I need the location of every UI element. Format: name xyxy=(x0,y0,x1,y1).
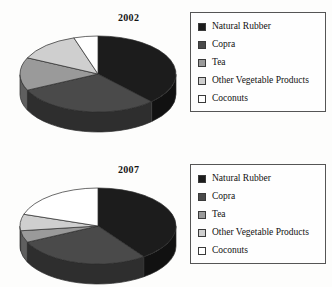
legend-swatch-tea xyxy=(198,59,206,67)
legend-item[interactable]: Copra xyxy=(198,188,318,206)
legend-label-copra: Copra xyxy=(212,40,235,50)
legend-swatch-tea xyxy=(198,211,206,219)
legend-item[interactable]: Coconuts xyxy=(198,242,318,260)
legend-item[interactable]: Other Vegetable Products xyxy=(198,224,318,242)
legend-swatch-copra xyxy=(198,41,206,49)
legend-swatch-natural-rubber xyxy=(198,175,206,183)
legend-item[interactable]: Tea xyxy=(198,206,318,224)
legend-swatch-copra xyxy=(198,193,206,201)
legend-item[interactable]: Tea xyxy=(198,54,318,72)
legend-swatch-natural-rubber xyxy=(198,23,206,31)
legend-2002: Natural Rubber Copra Tea Other Vegetable… xyxy=(190,12,326,112)
legend-label-copra: Copra xyxy=(212,192,235,202)
legend-item[interactable]: Copra xyxy=(198,36,318,54)
legend-swatch-coconuts xyxy=(198,247,206,255)
legend-item[interactable]: Natural Rubber xyxy=(198,170,318,188)
legend-swatch-other-vegetable-products xyxy=(198,229,206,237)
legend-swatch-other-vegetable-products xyxy=(198,77,206,85)
legend-label-natural-rubber: Natural Rubber xyxy=(212,22,271,32)
bottom-clipped-text xyxy=(0,276,332,287)
legend-label-tea: Tea xyxy=(212,58,226,68)
legend-item[interactable]: Coconuts xyxy=(198,90,318,108)
legend-label-coconuts: Coconuts xyxy=(212,94,248,104)
legend-2007: Natural Rubber Copra Tea Other Vegetable… xyxy=(190,164,326,264)
pie-chart-2007 xyxy=(10,174,186,278)
pie-svg-2002 xyxy=(10,22,186,126)
pie-chart-2002 xyxy=(10,22,186,126)
legend-item[interactable]: Natural Rubber xyxy=(198,18,318,36)
chart-panel-2007: 2007 Natural Rubber Copra Tea Other Vege… xyxy=(0,142,332,284)
legend-label-other-vegetable-products: Other Vegetable Products xyxy=(212,76,309,86)
pie-svg-2007 xyxy=(10,174,186,278)
legend-label-tea: Tea xyxy=(212,210,226,220)
legend-label-natural-rubber: Natural Rubber xyxy=(212,174,271,184)
chart-panel-2002: 2002 Natural Rubber Copra Tea Other Vege… xyxy=(0,0,332,142)
legend-label-other-vegetable-products: Other Vegetable Products xyxy=(212,228,309,238)
legend-swatch-coconuts xyxy=(198,95,206,103)
legend-label-coconuts: Coconuts xyxy=(212,246,248,256)
legend-item[interactable]: Other Vegetable Products xyxy=(198,72,318,90)
